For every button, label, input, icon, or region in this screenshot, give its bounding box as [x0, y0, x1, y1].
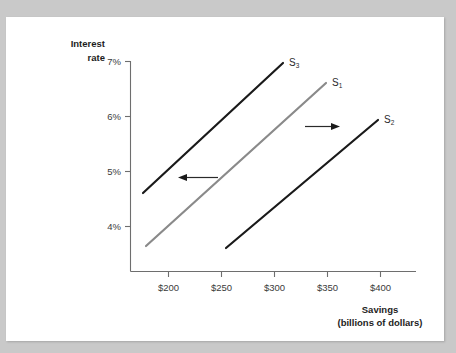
x-axis-title-line2: (billions of dollars)	[338, 317, 423, 328]
chart-svg: 7% 6% 5% 4% Interest rate $200 $250 $300…	[6, 17, 444, 341]
left-arrow-head-icon	[178, 174, 187, 181]
figure-sheet: 7% 6% 5% 4% Interest rate $200 $250 $300…	[6, 17, 444, 341]
curve-label-s2: S2	[384, 114, 395, 126]
curve-s2	[226, 120, 378, 248]
x-axis-title-line1: Savings	[362, 304, 398, 315]
right-shift-arrow	[305, 123, 340, 130]
curve-label-s3: S3	[289, 57, 300, 69]
x-tick-label-350: $350	[317, 282, 338, 293]
curve-label-s1: S1	[332, 77, 343, 89]
x-axis-ticks	[169, 272, 381, 278]
y-tick-label-7: 7%	[107, 56, 121, 67]
savings-supply-chart: 7% 6% 5% 4% Interest rate $200 $250 $300…	[6, 17, 444, 341]
y-tick-label-4: 4%	[107, 221, 121, 232]
x-tick-label-200: $200	[158, 282, 179, 293]
left-shift-arrow	[178, 174, 218, 181]
curve-s3	[143, 63, 283, 193]
right-arrow-head-icon	[331, 123, 340, 130]
x-tick-label-400: $400	[370, 282, 391, 293]
y-tick-label-5: 5%	[107, 166, 121, 177]
x-tick-label-250: $250	[211, 282, 232, 293]
y-axis-title-line1: Interest	[71, 38, 106, 49]
y-axis-title-line2: rate	[88, 52, 105, 63]
x-tick-label-300: $300	[264, 282, 285, 293]
y-axis-ticks	[125, 62, 131, 227]
y-tick-label-6: 6%	[107, 111, 121, 122]
